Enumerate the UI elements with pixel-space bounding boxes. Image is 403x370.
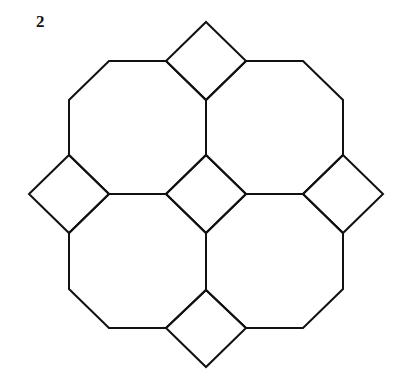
octagon-square-tiling-diagram bbox=[0, 0, 403, 370]
squares-group bbox=[29, 22, 383, 367]
square-center bbox=[166, 155, 246, 233]
square-top bbox=[166, 22, 246, 100]
square-left bbox=[29, 155, 109, 233]
square-bottom bbox=[166, 290, 246, 367]
square-right bbox=[303, 155, 383, 233]
